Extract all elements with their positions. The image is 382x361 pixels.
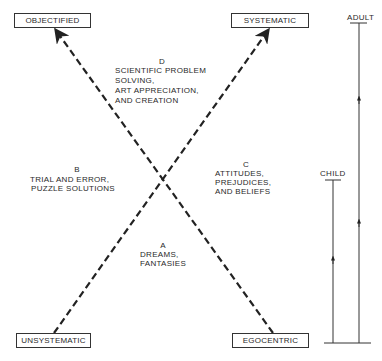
box-systematic: SYSTEMATIC — [231, 13, 309, 28]
quadrant-d-line-4: AND CREATION — [115, 96, 178, 106]
quadrant-a-line-2: FANTASIES — [140, 259, 186, 269]
quadrant-b-line-2: PUZZLE SOLUTIONS — [31, 184, 115, 194]
quadrant-d-line-3: ART APPRECIATION, — [115, 86, 199, 96]
diagram-canvas: OBJECTIFIED SYSTEMATIC UNSYSTEMATIC EGOC… — [0, 0, 382, 361]
box-egocentric: EGOCENTRIC — [232, 333, 309, 348]
quadrant-b-letter: B — [72, 165, 82, 175]
adult-label: ADULT — [347, 13, 374, 23]
child-label: CHILD — [320, 169, 346, 179]
box-objectified: OBJECTIFIED — [14, 13, 91, 28]
quadrant-d-line-2: SOLVING, — [115, 76, 155, 86]
quadrant-c-line-3: AND BELIEFS — [215, 187, 270, 197]
box-unsystematic: UNSYSTEMATIC — [16, 333, 91, 348]
quadrant-d-line-1: SCIENTIFIC PROBLEM — [115, 66, 206, 76]
